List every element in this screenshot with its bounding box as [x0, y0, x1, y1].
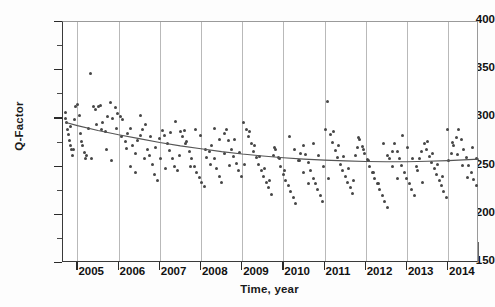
y-tick-400 — [54, 21, 62, 22]
x-tick-label-2010: 2010 — [284, 265, 310, 277]
y-tick-200 — [54, 214, 62, 215]
x-axis-label: Time, year — [0, 283, 495, 295]
x-tick-label-2007: 2007 — [161, 265, 187, 277]
x-tick-2009 — [241, 262, 242, 270]
x-tick-label-2011: 2011 — [326, 265, 351, 277]
x-tick-2005 — [76, 262, 77, 270]
y-tick-150 — [54, 262, 62, 263]
plot-area — [62, 21, 478, 262]
x-tick-label-2005: 2005 — [78, 265, 104, 277]
x-tick-label-2013: 2013 — [408, 265, 434, 277]
chart-figure: Q-Factor Time, year 400350300250200150 2… — [0, 0, 495, 307]
x-tick-label-2006: 2006 — [120, 265, 146, 277]
x-tick-label-2008: 2008 — [202, 265, 228, 277]
y-tick-350 — [54, 69, 62, 70]
x-tick-2008 — [200, 262, 201, 270]
x-tick-2013 — [406, 262, 407, 270]
y-tick-250 — [54, 166, 62, 167]
x-tick-label-2014: 2014 — [449, 265, 475, 277]
x-tick-2014 — [447, 262, 448, 270]
y-axis-label: Q-Factor — [13, 81, 25, 171]
x-tick-label-2009: 2009 — [243, 265, 269, 277]
x-tick-2011 — [324, 262, 325, 270]
y-tick-300 — [54, 117, 62, 118]
x-tick-label-2012: 2012 — [367, 265, 393, 277]
x-tick-2012 — [365, 262, 366, 270]
x-tick-2010 — [282, 262, 283, 270]
trend-line — [63, 22, 479, 263]
x-tick-2007 — [159, 262, 160, 270]
x-tick-2006 — [118, 262, 119, 270]
